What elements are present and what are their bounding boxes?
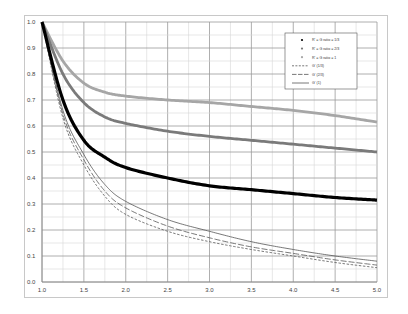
marker-icon bbox=[301, 48, 303, 50]
x-tick-label: 2.0 bbox=[122, 287, 131, 293]
legend-label: G' (1) bbox=[312, 81, 321, 85]
legend-label: R' = G ratio = 2/3 bbox=[312, 47, 339, 51]
y-tick-label: 0.7 bbox=[27, 97, 36, 103]
legend: R' = G ratio = 1/3R' = G ratio = 2/3R' =… bbox=[285, 33, 357, 89]
x-tick-label: 4.0 bbox=[289, 287, 298, 293]
legend-label: G' (1/3) bbox=[312, 64, 324, 68]
marker-icon bbox=[301, 56, 303, 58]
y-tick-label: 0.0 bbox=[27, 279, 36, 285]
legend-label: G' (2/3) bbox=[312, 73, 324, 77]
x-tick-label: 3.5 bbox=[247, 287, 256, 293]
x-tick-label: 2.5 bbox=[163, 287, 172, 293]
line-chart: 0.00.10.20.30.40.50.60.70.80.91.0 1.01.5… bbox=[0, 0, 408, 314]
marker-icon bbox=[301, 39, 303, 41]
x-axis-ticks: 1.01.52.02.53.03.54.04.55.0 bbox=[38, 287, 382, 293]
y-tick-label: 0.4 bbox=[27, 175, 36, 181]
legend-label: R' = G ratio = 1/3 bbox=[312, 38, 339, 42]
legend-label: R' = G ratio = 1 bbox=[312, 56, 336, 60]
x-tick-label: 1.5 bbox=[80, 287, 89, 293]
x-tick-label: 5.0 bbox=[373, 287, 382, 293]
y-axis-ticks: 0.00.10.20.30.40.50.60.70.80.91.0 bbox=[27, 19, 36, 285]
y-tick-label: 1.0 bbox=[27, 19, 36, 25]
y-tick-label: 0.2 bbox=[27, 227, 36, 233]
x-tick-label: 4.5 bbox=[331, 287, 340, 293]
y-tick-label: 0.8 bbox=[27, 71, 36, 77]
y-tick-label: 0.3 bbox=[27, 201, 36, 207]
y-tick-label: 0.9 bbox=[27, 45, 36, 51]
x-tick-label: 3.0 bbox=[205, 287, 214, 293]
y-tick-label: 0.5 bbox=[27, 149, 36, 155]
y-tick-label: 0.6 bbox=[27, 123, 36, 129]
x-tick-label: 1.0 bbox=[38, 287, 47, 293]
y-tick-label: 0.1 bbox=[27, 253, 36, 259]
